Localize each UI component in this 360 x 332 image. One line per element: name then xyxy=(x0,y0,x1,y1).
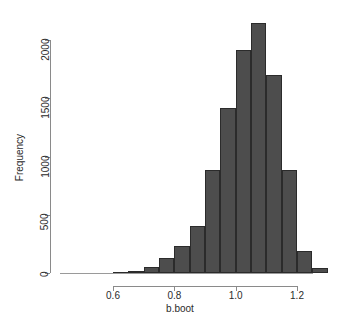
y-axis-tick-label: 2000 xyxy=(40,39,51,61)
histogram-bar xyxy=(205,170,220,273)
y-axis-label: Frequency xyxy=(14,103,25,213)
x-axis-tick-label: 1.2 xyxy=(282,290,312,301)
x-axis-label: b.boot xyxy=(0,303,360,314)
histogram-bar xyxy=(236,50,251,273)
x-axis-tick-label: 0.6 xyxy=(98,290,128,301)
y-axis-tick-label: 0 xyxy=(40,272,51,278)
histogram-bar xyxy=(190,226,205,273)
x-axis-line xyxy=(113,286,297,287)
histogram-plot: 0500100015002000 0.60.81.01.2 Frequency … xyxy=(0,0,360,332)
x-axis-tick-label: 1.0 xyxy=(221,290,251,301)
histogram-bar xyxy=(174,246,189,273)
histogram-bar xyxy=(220,108,235,273)
y-axis-tick-label: 1500 xyxy=(40,97,51,119)
histogram-bar xyxy=(312,268,327,273)
histogram-bar xyxy=(282,170,297,273)
histogram-bar xyxy=(159,258,174,273)
histogram-bar xyxy=(251,23,266,273)
histogram-bar xyxy=(297,251,312,273)
x-baseline xyxy=(60,273,313,274)
bar-series xyxy=(0,0,360,332)
y-axis-tick-label: 500 xyxy=(40,213,51,230)
x-axis-tick-label: 0.8 xyxy=(159,290,189,301)
y-axis-tick-label: 1000 xyxy=(40,155,51,177)
histogram-bar xyxy=(266,75,281,273)
